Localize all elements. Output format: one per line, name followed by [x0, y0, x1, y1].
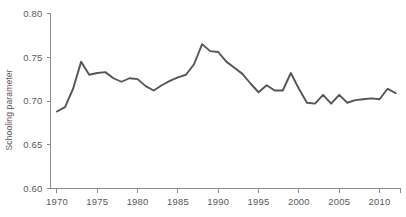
- y-tick-label: 0.75: [23, 52, 42, 63]
- x-tick-label: 1985: [167, 196, 189, 207]
- y-tick-label: 0.65: [23, 139, 42, 150]
- y-tick-label: 0.70: [23, 95, 42, 106]
- y-axis-title-group: Schooling parameter: [4, 69, 14, 150]
- x-tick-label: 2000: [288, 196, 310, 207]
- x-tick-label: 1980: [127, 196, 149, 207]
- x-axis-tick-labels: 197019751980198519901995200020052010: [46, 196, 391, 207]
- y-tick-label: 0.80: [23, 8, 42, 19]
- y-axis-ticks: [47, 14, 51, 189]
- y-axis-tick-labels: 0.600.650.700.750.80: [23, 8, 42, 194]
- data-line-schooling-parameter: [57, 44, 396, 111]
- x-tick-label: 2010: [369, 196, 391, 207]
- x-axis-ticks: [57, 189, 401, 193]
- x-axis-group: 197019751980198519901995200020052010: [46, 189, 401, 207]
- y-axis-group: 0.600.650.700.750.80: [23, 8, 50, 194]
- x-tick-label: 1995: [248, 196, 270, 207]
- x-tick-label: 1970: [46, 196, 68, 207]
- chart-figure: 0.600.650.700.750.80 1970197519801985199…: [0, 0, 406, 217]
- x-tick-label: 2005: [328, 196, 350, 207]
- data-series-group: [57, 44, 396, 111]
- x-tick-label: 1990: [207, 196, 229, 207]
- x-tick-label: 1975: [86, 196, 108, 207]
- line-chart-canvas: 0.600.650.700.750.80 1970197519801985199…: [0, 0, 406, 217]
- y-tick-label: 0.60: [23, 183, 42, 194]
- y-axis-title: Schooling parameter: [4, 69, 14, 150]
